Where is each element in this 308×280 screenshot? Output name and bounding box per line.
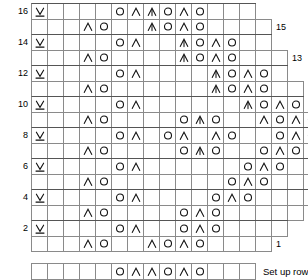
chart-cell[interactable]	[272, 66, 288, 82]
chart-cell[interactable]	[32, 206, 48, 222]
chart-cell[interactable]	[208, 128, 224, 144]
chart-cell[interactable]	[288, 159, 304, 175]
chart-cell[interactable]	[240, 159, 256, 175]
chart-row-5[interactable]	[31, 174, 308, 191]
chart-cell[interactable]	[48, 175, 64, 191]
chart-cell[interactable]	[256, 51, 272, 67]
chart-cell[interactable]	[288, 82, 304, 98]
chart-cell[interactable]	[64, 66, 80, 82]
chart-cell[interactable]	[192, 97, 208, 113]
chart-cell[interactable]	[208, 35, 224, 51]
chart-cell[interactable]	[176, 237, 192, 253]
chart-cell[interactable]	[32, 66, 48, 82]
chart-cell[interactable]	[208, 159, 224, 175]
chart-cell[interactable]	[224, 113, 240, 129]
chart-row-12[interactable]	[31, 65, 288, 82]
chart-cell[interactable]	[96, 221, 112, 237]
chart-cell[interactable]	[144, 66, 160, 82]
chart-cell[interactable]	[144, 20, 160, 36]
chart-cell[interactable]	[192, 190, 208, 206]
chart-cell[interactable]	[64, 237, 80, 253]
chart-cell[interactable]	[256, 221, 272, 237]
chart-cell[interactable]	[128, 144, 144, 160]
chart-cell[interactable]	[48, 221, 64, 237]
chart-cell[interactable]	[144, 144, 160, 160]
chart-row-8[interactable]	[31, 127, 308, 144]
chart-cell[interactable]	[96, 144, 112, 160]
chart-cell[interactable]	[176, 144, 192, 160]
chart-cell[interactable]	[96, 66, 112, 82]
chart-cell[interactable]	[96, 206, 112, 222]
chart-cell[interactable]	[80, 144, 96, 160]
chart-cell[interactable]	[176, 128, 192, 144]
chart-cell[interactable]	[192, 35, 208, 51]
chart-cell[interactable]	[192, 159, 208, 175]
chart-cell[interactable]	[32, 175, 48, 191]
chart-cell[interactable]	[32, 128, 48, 144]
chart-cell[interactable]	[304, 128, 308, 144]
chart-cell[interactable]	[240, 66, 256, 82]
chart-cell[interactable]	[240, 175, 256, 191]
chart-cell[interactable]	[208, 113, 224, 129]
chart-cell[interactable]	[32, 190, 48, 206]
chart-cell[interactable]	[192, 221, 208, 237]
chart-cell[interactable]	[176, 20, 192, 36]
chart-cell[interactable]	[48, 35, 64, 51]
chart-cell[interactable]	[192, 206, 208, 222]
chart-row-4[interactable]	[31, 189, 308, 206]
chart-cell[interactable]	[32, 4, 48, 20]
chart-row-10[interactable]	[31, 96, 304, 113]
chart-cell[interactable]	[144, 221, 160, 237]
chart-cell[interactable]	[288, 144, 304, 160]
chart-cell[interactable]	[176, 113, 192, 129]
chart-row-1[interactable]	[31, 236, 272, 253]
chart-cell[interactable]	[256, 82, 272, 98]
chart-cell[interactable]	[256, 190, 272, 206]
chart-cell[interactable]	[160, 82, 176, 98]
chart-cell[interactable]	[48, 20, 64, 36]
chart-cell[interactable]	[128, 97, 144, 113]
chart-cell[interactable]	[160, 51, 176, 67]
chart-cell[interactable]	[80, 97, 96, 113]
chart-cell[interactable]	[208, 206, 224, 222]
chart-cell[interactable]	[224, 20, 240, 36]
chart-cell[interactable]	[224, 237, 240, 253]
chart-cell[interactable]	[240, 190, 256, 206]
chart-cell[interactable]	[240, 128, 256, 144]
chart-cell[interactable]	[240, 51, 256, 67]
chart-cell[interactable]	[304, 113, 308, 129]
chart-cell[interactable]	[272, 51, 288, 67]
chart-cell[interactable]	[144, 4, 160, 20]
chart-cell[interactable]	[192, 113, 208, 129]
chart-cell[interactable]	[160, 4, 176, 20]
chart-cell[interactable]	[128, 206, 144, 222]
chart-cell[interactable]	[272, 144, 288, 160]
chart-cell[interactable]	[144, 159, 160, 175]
chart-cell[interactable]	[48, 144, 64, 160]
chart-row-11[interactable]	[31, 81, 304, 98]
chart-cell[interactable]	[208, 190, 224, 206]
chart-cell[interactable]	[304, 144, 308, 160]
chart-cell[interactable]	[256, 159, 272, 175]
chart-cell[interactable]	[224, 206, 240, 222]
chart-cell[interactable]	[208, 4, 224, 20]
chart-cell[interactable]	[128, 237, 144, 253]
chart-cell[interactable]	[80, 20, 96, 36]
chart-cell[interactable]	[160, 66, 176, 82]
chart-cell[interactable]	[144, 51, 160, 67]
chart-cell[interactable]	[208, 51, 224, 67]
chart-cell[interactable]	[112, 4, 128, 20]
chart-cell[interactable]	[128, 82, 144, 98]
chart-cell[interactable]	[144, 35, 160, 51]
chart-cell[interactable]	[256, 97, 272, 113]
chart-cell[interactable]	[176, 159, 192, 175]
chart-cell[interactable]	[128, 113, 144, 129]
chart-cell[interactable]	[256, 113, 272, 129]
chart-cell[interactable]	[112, 97, 128, 113]
chart-cell[interactable]	[160, 190, 176, 206]
chart-cell[interactable]	[80, 175, 96, 191]
chart-cell[interactable]	[80, 82, 96, 98]
chart-cell[interactable]	[240, 82, 256, 98]
chart-cell[interactable]	[160, 175, 176, 191]
chart-cell[interactable]	[160, 237, 176, 253]
